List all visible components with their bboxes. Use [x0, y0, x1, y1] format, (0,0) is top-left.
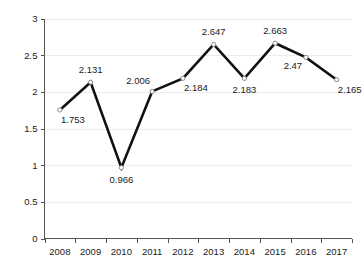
- x-tick-label: 2017: [326, 246, 347, 257]
- x-axis: [45, 239, 353, 243]
- data-point-marker: [242, 76, 246, 80]
- data-point-marker: [212, 42, 216, 46]
- data-point-marker: [335, 78, 339, 82]
- gridlines: [45, 20, 353, 203]
- data-point-label: 2.663: [263, 25, 287, 36]
- data-point-marker: [58, 108, 62, 112]
- data-point-label: 1.753: [61, 114, 85, 125]
- y-tick-label: 1: [32, 160, 37, 171]
- data-point-labels: 1.7532.1310.9662.0062.1842.6472.1832.663…: [61, 25, 362, 184]
- y-tick-label: 0.5: [24, 196, 37, 207]
- data-point-label: 2.647: [202, 26, 226, 37]
- chart-plot-area: 00.511.522.53 20082009201020112012201320…: [0, 0, 362, 271]
- y-axis: [41, 19, 45, 240]
- x-tick-label: 2014: [234, 246, 255, 257]
- y-tick-label: 2: [32, 86, 37, 97]
- x-tick-label: 2011: [142, 246, 162, 257]
- x-tick-label: 2016: [295, 246, 316, 257]
- x-tick-label: 2015: [265, 246, 286, 257]
- x-tick-labels: 2008200920102011201220132014201520162017: [49, 246, 347, 257]
- data-point-marker: [304, 55, 308, 59]
- y-tick-label: 2.5: [24, 50, 37, 61]
- data-point-marker: [89, 80, 93, 84]
- data-point-label: 2.184: [184, 82, 208, 93]
- data-point-label: 2.165: [338, 84, 362, 95]
- y-tick-labels: 00.511.522.53: [24, 13, 37, 244]
- data-point-label: 2.47: [284, 60, 303, 71]
- x-tick-label: 2010: [111, 246, 132, 257]
- x-tick-label: 2009: [80, 246, 101, 257]
- data-point-marker: [150, 89, 154, 93]
- line-chart: 00.511.522.53 20082009201020112012201320…: [0, 0, 362, 271]
- x-tick-label: 2012: [172, 246, 193, 257]
- data-point-label: 2.183: [232, 84, 256, 95]
- data-point-label: 2.006: [126, 75, 150, 86]
- data-point-marker: [273, 41, 277, 45]
- x-tick-label: 2013: [203, 246, 224, 257]
- data-point-marker: [119, 166, 123, 170]
- data-point-label: 2.131: [79, 64, 103, 75]
- y-tick-label: 0: [32, 233, 37, 244]
- y-tick-label: 1.5: [24, 123, 37, 134]
- data-point-label: 0.966: [109, 174, 133, 185]
- y-tick-label: 3: [32, 13, 37, 24]
- data-point-marker: [181, 76, 185, 80]
- x-tick-label: 2008: [49, 246, 70, 257]
